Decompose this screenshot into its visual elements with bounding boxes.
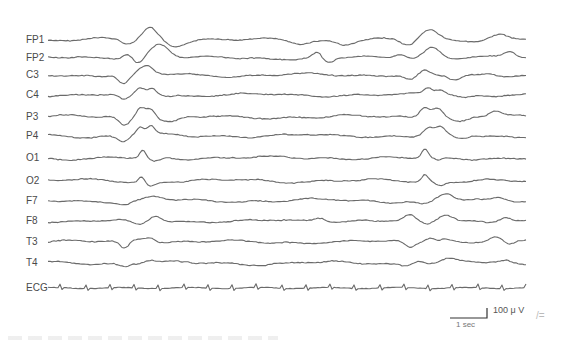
trace-o2 [48,175,526,187]
scale-bar [448,306,490,320]
trace-c4 [48,88,526,99]
trace-fp2 [48,44,526,62]
faded-caption [8,336,278,340]
eeg-traces [0,0,566,347]
trace-ecg [48,284,526,291]
trace-c3 [48,66,526,84]
trace-o1 [48,149,526,161]
trace-fp1 [48,27,526,47]
trace-t4 [48,258,526,267]
corner-mark: /= [536,310,545,321]
trace-t3 [48,237,526,248]
trace-p4 [48,126,526,142]
trace-f8 [48,215,526,225]
amplitude-scale-label: 100 μ V [493,305,524,315]
time-scale-label: 1 sec [456,320,475,329]
trace-p3 [48,108,526,126]
trace-f7 [48,194,526,205]
